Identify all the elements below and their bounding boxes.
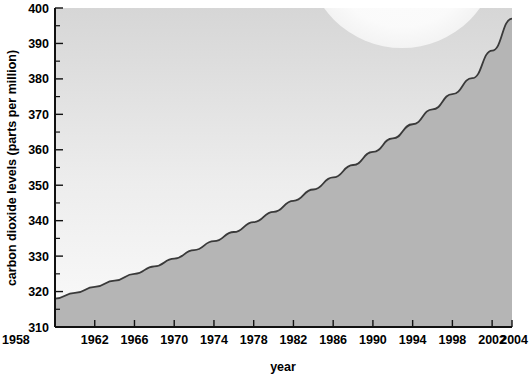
x-tick-label: 1982	[280, 333, 308, 347]
y-tick-label: 320	[28, 285, 49, 299]
x-tick-label: 1990	[359, 333, 387, 347]
x-tick-label: 2004	[500, 333, 528, 347]
x-tick-label: 1970	[160, 333, 188, 347]
x-tick-label: 1998	[438, 333, 466, 347]
x-axis-tick-labels: 1958196219661970197419781982198619901994…	[2, 333, 528, 347]
y-tick-label: 390	[28, 37, 49, 51]
y-tick-label: 360	[28, 143, 49, 157]
x-tick-label: 1962	[81, 333, 109, 347]
x-tick-label: 1986	[319, 333, 347, 347]
x-tick-label: 1958	[2, 333, 30, 347]
y-axis-title: carbon dioxide levels (parts per million…	[5, 50, 19, 286]
y-tick-label: 380	[28, 72, 49, 86]
y-tick-label: 330	[28, 250, 49, 264]
y-tick-label: 370	[28, 108, 49, 122]
y-tick-label: 340	[28, 214, 49, 228]
x-tick-label: 1978	[240, 333, 268, 347]
x-tick-label: 1994	[399, 333, 427, 347]
co2-area-chart: 1958196219661970197419781982198619901994…	[0, 0, 530, 380]
x-tick-label: 1966	[121, 333, 149, 347]
x-tick-label: 1974	[200, 333, 228, 347]
y-tick-label: 310	[28, 321, 49, 335]
chart-canvas: 1958196219661970197419781982198619901994…	[0, 0, 530, 380]
plot-area	[55, 0, 512, 327]
x-axis-title: year	[270, 360, 296, 374]
y-tick-label: 350	[28, 179, 49, 193]
y-tick-label: 400	[28, 2, 49, 16]
